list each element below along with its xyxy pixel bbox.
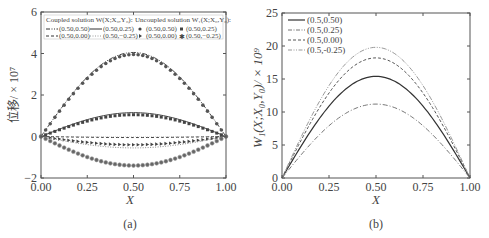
legend-item: (0.50,0.00) <box>146 32 178 40</box>
series-line <box>41 137 226 148</box>
x-tick-label: 0.25 <box>77 180 98 194</box>
chart-b-xlabel: X <box>371 192 381 207</box>
legend-item: (0.5,-0.25) <box>307 45 345 55</box>
chart-a-xlabel: X <box>125 192 135 207</box>
square-marker-icon <box>180 28 183 31</box>
chart-b: 0.000.250.500.751.000510152025 (0.5,0.50… <box>250 6 481 231</box>
y-tick-label: 15 <box>266 72 278 86</box>
chart-a: 0.000.250.500.751.00−20246 Coupled solut… <box>6 5 237 231</box>
chart-a-curves <box>39 52 228 167</box>
series-line <box>282 76 470 178</box>
chart-a-legend: Coupled solution W(X;X₀,Y₀): Uncoupled s… <box>44 15 231 41</box>
chart-b-caption: (b) <box>369 217 383 231</box>
star-marker-icon: ✱ <box>179 33 185 41</box>
y-tick-label: 5 <box>272 138 278 152</box>
legend-item: (0.50,−0.25) <box>103 32 139 40</box>
chart-b-legend: (0.5,0.50) (0.5,0.25) (0.5,0.00) (0.5,-0… <box>288 15 345 55</box>
circle-marker-icon <box>138 27 141 30</box>
y-tick-label: 20 <box>266 39 278 53</box>
y-tick-label: 6 <box>31 5 37 19</box>
legend-uncoupled-title: Uncoupled solution W₁(X;X₀,Y₀): <box>135 16 231 24</box>
y-tick-label: 2 <box>31 88 37 102</box>
legend-item: (0.50,−0.25) <box>186 32 222 40</box>
legend-item: (0.5,0.25) <box>307 25 342 35</box>
y-tick-label: 0 <box>272 171 278 185</box>
chart-b-curves <box>282 47 470 178</box>
x-tick-label: 1.00 <box>460 180 481 194</box>
chart-b-ticks: 0.000.250.500.751.000510152025 <box>266 6 481 194</box>
y-tick-label: −2 <box>24 171 37 185</box>
series-line <box>282 47 470 178</box>
figure: 0.000.250.500.751.00−20246 Coupled solut… <box>0 0 489 238</box>
x-tick-label: 0.75 <box>413 180 434 194</box>
chart-a-ylabel: 位移/ × 10⁷ <box>6 67 21 123</box>
chart-b-ylabel: W₁(X;X₀,Y₀)/ × 10⁹ <box>250 47 265 148</box>
x-tick-label: 0.75 <box>169 180 190 194</box>
legend-item: (0.5,0.50) <box>307 15 342 25</box>
series-line <box>282 104 470 178</box>
series-line <box>41 52 226 136</box>
y-tick-label: 4 <box>31 47 37 61</box>
y-tick-label: 10 <box>266 105 278 119</box>
chart-a-caption: (a) <box>123 217 136 231</box>
y-tick-label: 25 <box>266 6 278 20</box>
y-tick-label: 0 <box>31 130 37 144</box>
legend-item: (0.50,0.00) <box>59 32 91 40</box>
x-tick-label: 0.25 <box>319 180 340 194</box>
legend-coupled-title: Coupled solution W(X;X₀,Y₀): <box>46 16 133 24</box>
x-tick-label: 1.00 <box>216 180 237 194</box>
series-line <box>41 113 226 137</box>
legend-item: (0.5,0.00) <box>307 35 342 45</box>
